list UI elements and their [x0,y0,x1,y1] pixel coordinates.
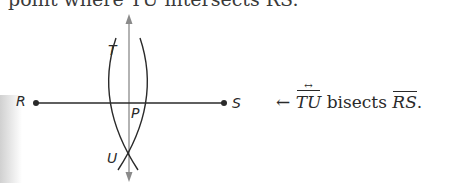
label-r: R [16,93,26,109]
caption: ← TU bisects RS. [276,92,422,112]
caption-period: . [417,92,422,112]
left-arrow-icon: ← [276,92,290,112]
caption-verb: bisects [321,92,392,112]
label-p: P [131,105,139,121]
label-u: U [107,150,117,166]
label-t: T [108,42,117,58]
point-r-dot [33,100,39,106]
line-tu-notation: TU [296,92,322,112]
label-s: S [232,95,241,111]
arrow-down-icon [126,172,133,182]
segment-rs-notation: RS [392,92,416,112]
arrow-up-icon [126,14,133,24]
point-s-dot [221,100,227,106]
arc-right [118,38,147,170]
